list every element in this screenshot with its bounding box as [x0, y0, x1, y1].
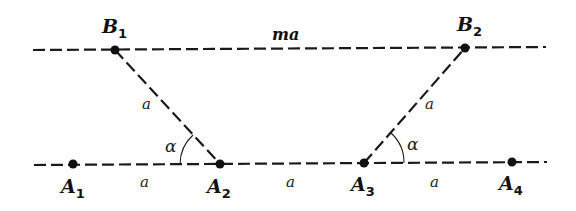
label-angle-left: α — [165, 136, 177, 156]
label-a2: A2 — [205, 175, 231, 201]
angle-arc-right — [391, 133, 404, 163]
label-seg-a1-a2: a — [140, 173, 149, 191]
label-seg-a3-b2: a — [425, 95, 434, 113]
label-angle-right: α — [407, 134, 419, 154]
label-a4: A4 — [497, 172, 523, 198]
label-seg-a3-a4: a — [430, 173, 439, 191]
point-b1 — [111, 46, 120, 55]
point-a3 — [360, 159, 369, 168]
label-top-segment: ma — [272, 25, 299, 44]
point-a2 — [216, 160, 225, 169]
label-b2: B2 — [456, 13, 482, 39]
label-a3: A3 — [349, 173, 375, 199]
point-a4 — [508, 158, 517, 167]
lattice-diagram: B1 B2 A1 A2 A3 A4 ma a a a a a α α — [0, 0, 576, 211]
label-seg-b1-a2: a — [142, 95, 151, 113]
bottom-line — [34, 162, 547, 165]
point-a1 — [69, 160, 78, 169]
label-a1: A1 — [59, 175, 85, 201]
label-b1: B1 — [101, 15, 127, 41]
point-b2 — [461, 44, 470, 53]
label-seg-a2-a3: a — [286, 173, 295, 191]
angle-arc-left — [180, 135, 193, 164]
